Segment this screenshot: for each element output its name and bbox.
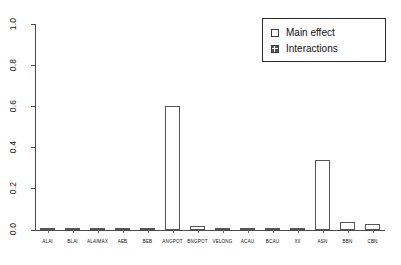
y-tick-label-3: 0.6	[8, 93, 18, 119]
x-tick-label-cbn: CBN	[367, 239, 377, 244]
x-tick-10	[298, 230, 299, 233]
x-tick-label-aeb: AEB	[118, 239, 128, 244]
y-tick-label-2: 0.4	[8, 134, 18, 160]
x-tick-label-alaimax: ALAIMAX	[87, 239, 108, 244]
x-axis-line	[35, 230, 385, 231]
x-tick-label-bngpot: BNGPOT	[187, 239, 207, 244]
x-tick-13	[373, 230, 374, 233]
x-tick-9	[273, 230, 274, 233]
y-tick-1	[31, 188, 35, 189]
x-tick-7	[223, 230, 224, 233]
x-tick-4	[148, 230, 149, 233]
x-tick-label-asn: ASN	[318, 239, 328, 244]
bar-main-bcau	[265, 228, 281, 230]
x-tick-0	[48, 230, 49, 233]
y-tick-label-4: 0.8	[8, 52, 18, 78]
x-tick-label-bbn: BBN	[343, 239, 353, 244]
bar-main-velong	[215, 228, 231, 230]
x-tick-11	[323, 230, 324, 233]
bar-main-bngpot	[190, 226, 206, 230]
y-tick-5	[31, 24, 35, 25]
legend-swatch-interactions	[271, 45, 279, 53]
x-tick-3	[123, 230, 124, 233]
legend-item-interactions: Interactions	[271, 41, 377, 57]
x-tick-12	[348, 230, 349, 233]
bar-main-acau	[240, 228, 256, 230]
x-tick-label-bcau: BCAU	[266, 239, 279, 244]
bar-main-xii	[290, 228, 306, 230]
y-tick-label-1: 0.2	[8, 175, 18, 201]
y-tick-3	[31, 106, 35, 107]
bar-main-alai	[40, 228, 56, 230]
bar-main-alaimax	[90, 228, 106, 230]
bar-main-angpot	[165, 106, 181, 230]
x-tick-label-velong: VELONG	[212, 239, 232, 244]
legend-item-main-effect: Main effect	[271, 25, 377, 41]
x-tick-label-acau: ACAU	[241, 239, 254, 244]
bar-main-asn	[315, 160, 331, 230]
x-tick-6	[198, 230, 199, 233]
legend: Main effect Interactions	[262, 18, 386, 62]
bar-main-blai	[65, 228, 81, 230]
x-tick-2	[98, 230, 99, 233]
x-tick-label-alai: ALAI	[42, 239, 53, 244]
legend-label-main-effect: Main effect	[286, 27, 335, 39]
x-tick-5	[173, 230, 174, 233]
x-tick-1	[73, 230, 74, 233]
legend-swatch-main-effect	[271, 29, 279, 37]
x-tick-label-angpot: ANGPOT	[162, 239, 182, 244]
x-tick-label-beb: BEB	[143, 239, 153, 244]
y-tick-0	[31, 230, 35, 231]
y-axis-line	[35, 24, 36, 231]
y-tick-label-5: 1.0	[8, 11, 18, 37]
y-tick-4	[31, 65, 35, 66]
bar-main-beb	[140, 228, 156, 230]
y-tick-label-0: 0.0	[8, 216, 18, 242]
bar-main-aeb	[115, 228, 131, 230]
bar-main-bbn	[340, 222, 356, 230]
legend-label-interactions: Interactions	[286, 43, 338, 55]
bar-main-cbn	[365, 224, 381, 230]
y-tick-2	[31, 147, 35, 148]
x-tick-8	[248, 230, 249, 233]
x-tick-label-blai: BLAI	[67, 239, 78, 244]
x-tick-label-xii: XII	[294, 239, 300, 244]
bar-chart: 0.00.20.40.60.81.0 ALAIBLAIALAIMAXAEBBEB…	[0, 0, 401, 265]
